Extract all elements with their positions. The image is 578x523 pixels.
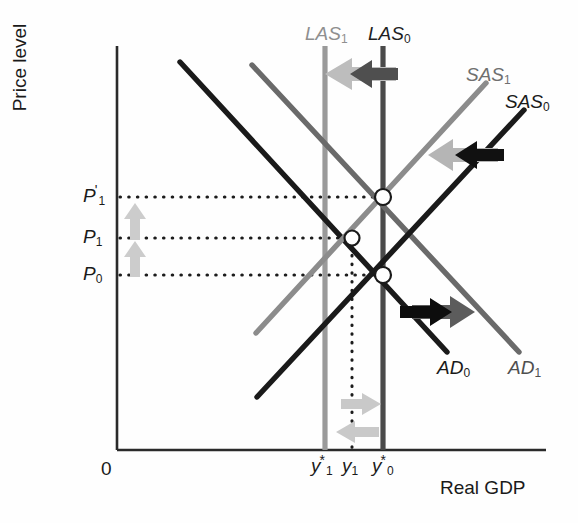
x-tick-star-y0star: * [381, 452, 386, 468]
y-tick-label-p1: P1 [83, 227, 102, 246]
curve-label-LAS0-base: LAS [368, 23, 404, 44]
curve-label-SAS1-sub: 1 [504, 73, 511, 87]
curve-SAS1 [256, 83, 486, 333]
sas-shift-arrow-front [455, 141, 504, 169]
figure-canvas: Price level Real GDP 0 P'1 P1 P0 y*1 y1 … [0, 0, 578, 523]
y-tick-sub-p0: 0 [96, 272, 103, 286]
x-tick-label-y1: y1 [342, 456, 358, 475]
curve-label-AD0-base: AD [437, 357, 463, 378]
curve-label-AD1-base: AD [508, 357, 534, 378]
y-tick-base-p1: P [83, 226, 96, 247]
curve-label-SAS0-sub: 0 [543, 100, 550, 114]
curve-label-LAS1-sub: 1 [341, 32, 348, 46]
curve-label-AD1-sub: 1 [534, 366, 541, 380]
equilibrium-marker-E1prime [375, 189, 391, 205]
ad-shift-arrow-front [400, 298, 452, 326]
x-tick-base-y1: y [342, 455, 352, 476]
gdp-gap-arrows-group [336, 393, 381, 443]
curve-label-LAS0: LAS0 [368, 24, 411, 43]
equilibrium-marker-E1 [345, 231, 360, 246]
curve-label-LAS0-sub: 0 [404, 32, 411, 46]
x-tick-label-y1star: y*1 [311, 456, 333, 475]
y-tick-base-p0: P [83, 263, 96, 284]
y-axis-title: Price level [10, 18, 29, 118]
x-tick-sub-y1star: 1 [326, 464, 333, 478]
curve-label-AD0: AD0 [437, 358, 470, 377]
curve-label-SAS0: SAS0 [505, 92, 550, 111]
curve-label-AD1: AD1 [508, 358, 541, 377]
curve-label-LAS1-base: LAS [305, 23, 341, 44]
gdp-gap-arrow-right [341, 393, 381, 415]
x-tick-sub-y1: 1 [352, 464, 359, 478]
las-shift-arrow [325, 58, 398, 90]
x-tick-label-y0star: y*0 [372, 456, 394, 475]
ad-shift-arrow [400, 296, 475, 328]
price-rise-arrows-group [124, 203, 146, 277]
curve-label-SAS0-base: SAS [505, 91, 543, 112]
curve-label-SAS1: SAS1 [466, 65, 511, 84]
sas-curves-group [256, 83, 524, 397]
origin-label: 0 [101, 459, 112, 478]
curve-label-AD0-sub: 0 [463, 366, 470, 380]
y-tick-base-p1prime: P [83, 185, 96, 206]
price-rise-arrow-upper [124, 203, 146, 240]
gdp-gap-arrow-left [336, 421, 379, 443]
y-tick-sup-p1prime: ' [95, 182, 98, 198]
x-axis-title: Real GDP [440, 478, 526, 497]
x-tick-star-y1star: * [320, 452, 325, 468]
las-shift-arrow-front [350, 60, 398, 88]
y-tick-label-p0: P0 [83, 264, 102, 283]
x-tick-sub-y0star: 0 [387, 464, 394, 478]
curve-label-LAS1: LAS1 [305, 24, 348, 43]
y-tick-label-p1prime: P'1 [83, 186, 105, 205]
curve-label-SAS1-base: SAS [466, 64, 504, 85]
y-tick-sub-p1: 1 [96, 235, 103, 249]
y-tick-sub-p1prime: 1 [98, 194, 105, 208]
price-rise-arrow-lower [124, 241, 146, 277]
equilibrium-marker-E0 [375, 267, 391, 283]
